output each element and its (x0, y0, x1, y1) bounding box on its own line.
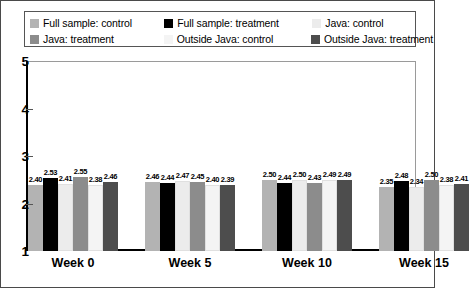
bar-week-10-java-treatment[interactable]: 2.43 (307, 61, 322, 251)
bar-rect (205, 185, 220, 252)
bar-rect (322, 180, 337, 251)
bar-week-5-full-sample-control[interactable]: 2.46 (145, 61, 160, 251)
bar-rect (277, 183, 292, 251)
bar-group-week-10: 2.502.442.502.432.492.49 (262, 61, 352, 251)
legend-swatch-icon-outside-java-control (164, 35, 173, 44)
bar-rect (103, 182, 118, 251)
bar-week-15-full-sample-control[interactable]: 2.35 (379, 61, 394, 251)
legend-label-full-sample-treatment: Full sample: treatment (177, 16, 279, 30)
bar-week-5-outside-java-control[interactable]: 2.40 (205, 61, 220, 251)
bar-rect (58, 184, 73, 251)
bar-week-15-outside-java-treatment[interactable]: 2.41 (454, 61, 469, 251)
legend-label-outside-java-control: Outside Java: control (177, 32, 274, 46)
bar-rect (292, 180, 307, 251)
bar-week-0-java-treatment[interactable]: 2.55 (73, 61, 88, 251)
bar-group-week-15: 2.352.482.342.502.382.41 (379, 61, 469, 251)
bar-week-5-java-treatment[interactable]: 2.45 (190, 61, 205, 251)
bar-group-week-0: 2.402.532.412.552.382.46 (28, 61, 118, 251)
bar-rect (409, 187, 424, 251)
bar-rect (262, 180, 277, 251)
bar-week-10-outside-java-treatment[interactable]: 2.49 (337, 61, 352, 251)
bar-rect (454, 184, 469, 251)
legend-item-full-sample-treatment: Full sample: treatment (164, 16, 312, 30)
legend-item-outside-java-control: Outside Java: control (164, 32, 311, 46)
bar-week-0-outside-java-treatment[interactable]: 2.46 (103, 61, 118, 251)
x-axis-label-week-10: Week 10 (282, 256, 332, 270)
bar-rect (43, 178, 58, 251)
y-axis-tick-label-1: 1 (17, 244, 29, 259)
x-axis-labels: Week 0Week 5Week 10Week 15 (28, 256, 416, 278)
legend-item-full-sample-control: Full sample: control (30, 16, 164, 30)
bar-rect (145, 182, 160, 251)
bar-week-10-full-sample-treatment[interactable]: 2.44 (277, 61, 292, 251)
legend-swatch-icon-java-control (312, 19, 321, 28)
bar-value-label: 2.41 (449, 174, 473, 183)
legend-row-1: Full sample: control Full sample: treatm… (30, 15, 411, 31)
legend-label-full-sample-control: Full sample: control (43, 16, 132, 30)
legend-item-outside-java-treatment: Outside Java: treatment (311, 32, 411, 46)
bar-rect (73, 177, 88, 251)
x-axis-label-week-15: Week 15 (399, 256, 449, 270)
x-axis-label-week-0: Week 0 (52, 256, 95, 270)
bar-rect (379, 187, 394, 251)
bar-rect (160, 183, 175, 251)
legend-item-java-treatment: Java: treatment (30, 32, 164, 46)
bar-week-5-outside-java-treatment[interactable]: 2.39 (220, 61, 235, 251)
bar-rect (88, 185, 103, 251)
bar-week-5-full-sample-treatment[interactable]: 2.44 (160, 61, 175, 251)
legend-label-java-treatment: Java: treatment (43, 32, 114, 46)
bar-rect (28, 185, 43, 252)
bar-week-0-outside-java-control[interactable]: 2.38 (88, 61, 103, 251)
bar-rect (424, 180, 439, 251)
y-axis-tick-mark-4 (26, 109, 33, 110)
bar-week-0-java-control[interactable]: 2.41 (58, 61, 73, 251)
bar-week-10-java-control[interactable]: 2.50 (292, 61, 307, 251)
bar-rect (175, 181, 190, 251)
x-axis-label-week-5: Week 5 (169, 256, 212, 270)
legend-row-2: Java: treatment Outside Java: control Ou… (30, 31, 411, 47)
bar-week-15-java-control[interactable]: 2.34 (409, 61, 424, 251)
y-axis-tick-mark-3 (26, 156, 33, 157)
chart-legend: Full sample: control Full sample: treatm… (24, 11, 416, 47)
bar-week-15-java-treatment[interactable]: 2.50 (424, 61, 439, 251)
bar-rect (220, 185, 235, 251)
bar-week-0-full-sample-treatment[interactable]: 2.53 (43, 61, 58, 251)
bar-rect (394, 181, 409, 251)
bar-week-10-outside-java-control[interactable]: 2.49 (322, 61, 337, 251)
bar-rect (337, 180, 352, 251)
bar-value-label: 2.39 (215, 175, 241, 184)
bar-rect (439, 185, 454, 251)
bar-value-label: 2.46 (98, 172, 124, 181)
y-axis-tick-mark-2 (26, 204, 33, 205)
legend-swatch-icon-outside-java-treatment (311, 35, 320, 44)
bar-value-label: 2.49 (332, 170, 358, 179)
bar-week-10-full-sample-control[interactable]: 2.50 (262, 61, 277, 251)
bar-group-week-5: 2.462.442.472.452.402.39 (145, 61, 235, 251)
legend-swatch-icon-full-sample-treatment (164, 19, 173, 28)
bar-rect (190, 182, 205, 251)
legend-item-java-control: Java: control (312, 16, 411, 30)
y-axis-tick-label-5: 5 (17, 54, 29, 69)
bar-week-15-full-sample-treatment[interactable]: 2.48 (394, 61, 409, 251)
legend-swatch-icon-java-treatment (30, 35, 39, 44)
bar-rect (307, 183, 322, 251)
legend-label-outside-java-treatment: Outside Java: treatment (324, 32, 433, 46)
bar-week-5-java-control[interactable]: 2.47 (175, 61, 190, 251)
legend-label-java-control: Java: control (325, 16, 383, 30)
bar-groups: 2.402.532.412.552.382.462.462.442.472.45… (28, 61, 416, 251)
legend-swatch-icon-full-sample-control (30, 19, 39, 28)
bar-week-15-outside-java-control[interactable]: 2.38 (439, 61, 454, 251)
